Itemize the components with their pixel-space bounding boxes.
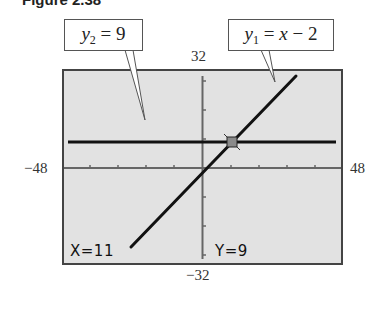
callout-y1-equation: y1 = x − 2: [228, 19, 334, 51]
trace-readout-y: Y=9: [215, 242, 248, 260]
callout-y1-const: − 2: [288, 23, 318, 44]
callout-y2-equation: y2 = 9: [64, 19, 143, 51]
trace-readout-x: X=11: [70, 242, 114, 260]
callout-y1-x: x: [279, 23, 287, 44]
callout-y1-eq: =: [264, 23, 279, 44]
callout-y1-sub: 1: [253, 33, 259, 47]
callout-y2-rhs: = 9: [101, 23, 126, 44]
ymax-label: 32: [191, 48, 206, 65]
ymin-label: −32: [186, 267, 209, 284]
xmax-label: 48: [350, 160, 365, 177]
callout-y2-sub: 2: [90, 33, 96, 47]
callout-y2-var: y: [81, 23, 89, 44]
xmin-label: −48: [24, 160, 47, 177]
callout-y1-var: y: [245, 23, 253, 44]
